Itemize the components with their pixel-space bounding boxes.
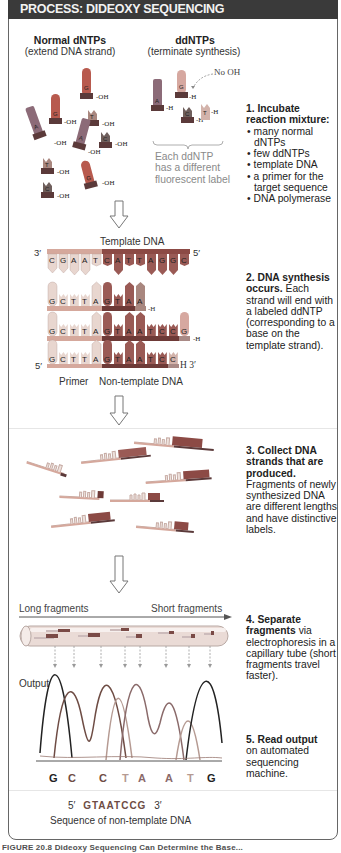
base-letter: G: [104, 355, 110, 364]
base-letter: C: [170, 355, 176, 364]
no-oh-label: No OH: [214, 67, 240, 77]
non-template-dna-label: Non-template DNA: [99, 376, 183, 387]
base-letter: A: [93, 355, 98, 364]
sequence-caption: Sequence of non-template DNA: [50, 815, 191, 826]
base-letter: T: [71, 297, 76, 306]
step-1-item: a primer for the target sequence: [246, 171, 336, 194]
base-letter: A: [148, 256, 153, 265]
normal-dntps-title: Normal dNTPs: [20, 34, 120, 46]
base-letter: T: [71, 327, 76, 336]
down-arrow-icon: [109, 555, 129, 595]
base-call: T: [187, 772, 194, 784]
long-fragments-label: Long fragments: [19, 603, 89, 614]
base-letter: T: [137, 256, 142, 265]
base-letter: C: [60, 297, 66, 306]
strand-2-row: G C T T A G T A A T C C G: [48, 327, 198, 337]
step-5-heading: 5. Read output: [246, 734, 318, 745]
base-letter: T: [82, 297, 87, 306]
primer-label: Primer: [59, 376, 88, 387]
base-letter: A: [71, 256, 76, 265]
base-call: G: [207, 772, 216, 784]
svg-text:C: C: [185, 111, 190, 117]
normal-dntps-illustration: G-OH G-OH T-OH A -OH A -OH C-OH T-OH: [20, 60, 130, 210]
svg-text:-OH: -OH: [57, 192, 69, 200]
step-3-text: Fragments of newly synthesized DNA are d…: [246, 479, 337, 535]
svg-text:T: T: [203, 110, 207, 116]
base-letter: A: [82, 256, 87, 265]
seq-5prime: 5′: [68, 800, 75, 811]
base-call: A: [165, 772, 173, 784]
strand-3-row: G C T T A G T A A T C C: [48, 355, 198, 365]
template-3prime: 3′: [34, 247, 41, 258]
base-letter: T: [126, 256, 131, 265]
base-call: C: [99, 772, 107, 784]
template-sequence-row: C G A A T C A T T A G G C: [48, 256, 198, 266]
template-dna-label: Template DNA: [100, 236, 164, 247]
svg-text:C: C: [103, 136, 108, 142]
strand-5prime: 5′: [35, 360, 42, 371]
seq-letters: GTAATCCG: [83, 800, 146, 811]
svg-text:-OH: -OH: [57, 168, 69, 176]
step-3-heading: 3. Collect DNA strands that are produced…: [246, 445, 323, 479]
step-1-item: many normal dNTPs: [246, 126, 336, 149]
base-letter: A: [126, 297, 131, 306]
base-letter: T: [148, 355, 153, 364]
base-letter: A: [137, 327, 142, 336]
step-4-heading: 4. Separate fragments: [246, 614, 301, 636]
base-call: C: [68, 772, 76, 784]
base-letter: A: [93, 297, 98, 306]
svg-text:-OH: -OH: [102, 120, 114, 128]
base-letter: G: [104, 297, 110, 306]
ddntp-bracket: [152, 140, 224, 150]
svg-text:C: C: [45, 186, 50, 192]
base-letter: G: [159, 256, 165, 265]
step-1-heading: 1. Incubate reaction mixture:: [246, 103, 330, 125]
ddntps-subtitle: (terminate synthesis): [136, 46, 252, 57]
base-letter: G: [49, 297, 55, 306]
svg-text:A: A: [155, 98, 159, 104]
strand-3prime-h: H 3′: [180, 360, 196, 370]
step-1-item: DNA polymerase: [246, 193, 336, 204]
base-letter: T: [82, 355, 87, 364]
seq-3prime: 3′: [154, 800, 161, 811]
base-letter: C: [159, 327, 165, 336]
svg-text:-OH: -OH: [64, 118, 76, 126]
base-letter: G: [49, 355, 55, 364]
base-letter: C: [104, 256, 110, 265]
base-letter: A: [93, 327, 98, 336]
base-call-row: G C C T A A T G: [36, 772, 226, 784]
base-call: G: [49, 772, 58, 784]
dna-fragments-illustration: [20, 428, 220, 548]
base-letter: T: [115, 327, 120, 336]
svg-text:-OH: -OH: [102, 179, 114, 187]
down-arrow-icon: [109, 395, 129, 427]
sequence-result: 5′ GTAATCCG 3′: [68, 800, 162, 811]
base-letter: T: [115, 355, 120, 364]
step-5: 5. Read output on automated sequencing m…: [246, 734, 338, 779]
base-letter: G: [60, 256, 66, 265]
strand-2-h: -H: [193, 335, 200, 343]
svg-text:G: G: [179, 84, 184, 90]
base-letter: G: [170, 256, 176, 265]
base-letter: T: [115, 297, 120, 306]
step-1-list: many normal dNTPs few ddNTPs template DN…: [246, 126, 336, 205]
figure-caption: FIGURE 20.8 Dideoxy Sequencing Can Deter…: [2, 843, 243, 852]
svg-text:-H: -H: [166, 104, 173, 112]
step-5-text: on automated sequencing machine.: [246, 745, 309, 779]
ddntp-note-line: Each ddNTP: [155, 151, 230, 162]
base-letter: G: [181, 327, 187, 336]
step-2: 2. DNA synthesis occurs. Each strand wil…: [246, 272, 336, 351]
base-letter: T: [82, 327, 87, 336]
base-call: T: [122, 772, 129, 784]
step-4: 4. Separate fragments via electrophoresi…: [246, 614, 338, 682]
chromatogram: [36, 668, 226, 768]
base-letter: A: [137, 355, 142, 364]
svg-text:T: T: [45, 162, 49, 168]
step-1-item: few ddNTPs: [246, 148, 336, 159]
base-letter: A: [126, 327, 131, 336]
ddntp-note: Each ddNTP has a different fluorescent l…: [155, 151, 230, 185]
svg-text:-OH: -OH: [115, 140, 127, 148]
base-letter: G: [104, 327, 110, 336]
base-letter: A: [137, 297, 142, 306]
svg-text:G: G: [84, 85, 89, 91]
